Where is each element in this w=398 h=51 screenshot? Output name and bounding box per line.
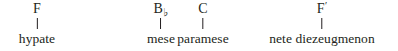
note-group-mese: B♭ mese	[147, 0, 175, 51]
prime-icon: ′	[325, 0, 327, 11]
note-name-hypate: hypate	[19, 31, 55, 47]
note-group-nete-diezeugmenon: F′ nete diezeugmenon	[269, 0, 374, 51]
connector-stem-nete-diezeugmenon	[322, 18, 323, 29]
note-group-paramese: C paramese	[177, 0, 228, 51]
connector-stem-hypate	[36, 18, 37, 29]
note-label-diagram: F hypate B♭ mese C paramese F′ nete diez…	[0, 0, 398, 51]
pitch-letter: F	[317, 1, 325, 16]
note-name-paramese: paramese	[177, 31, 228, 47]
connector-stem-mese	[160, 18, 161, 29]
flat-icon: ♭	[163, 6, 168, 18]
note-name-nete-diezeugmenon: nete diezeugmenon	[269, 31, 374, 47]
pitch-letter: F	[33, 1, 41, 16]
pitch-letter: B	[154, 1, 163, 16]
note-name-mese: mese	[147, 31, 175, 47]
pitch-label-paramese: C	[198, 0, 207, 17]
pitch-letter: C	[198, 1, 207, 16]
pitch-label-hypate: F	[33, 0, 41, 17]
connector-stem-paramese	[203, 18, 204, 29]
note-group-hypate: F hypate	[19, 0, 55, 51]
pitch-label-nete-diezeugmenon: F′	[317, 0, 327, 17]
pitch-label-mese: B♭	[154, 0, 169, 17]
